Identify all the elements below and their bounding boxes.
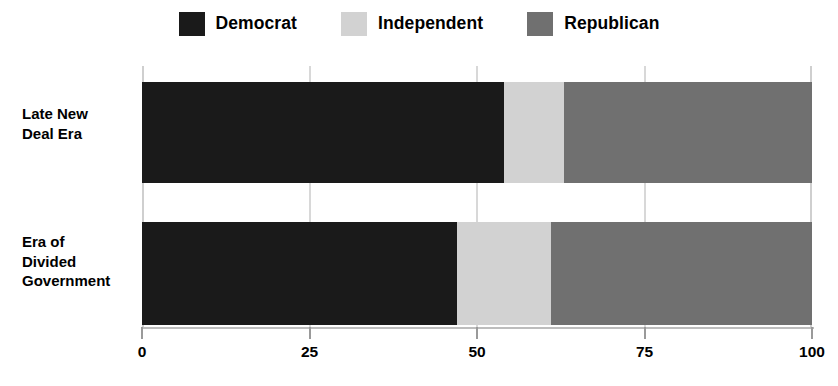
- legend-swatch-independent: [341, 12, 367, 36]
- legend-item-democrat: Democrat: [179, 12, 298, 36]
- bar-segment-independent: [504, 82, 564, 183]
- bar-segment-independent: [457, 222, 551, 325]
- x-axis-line: [142, 327, 814, 329]
- legend-label-republican: Republican: [564, 15, 659, 33]
- x-tick-mark-50: [476, 327, 478, 339]
- bar-segment-democrat: [142, 222, 457, 325]
- legend-label-democrat: Democrat: [216, 15, 298, 33]
- legend-item-republican: Republican: [527, 12, 659, 36]
- x-tick-label-25: 25: [301, 343, 318, 361]
- x-tick-mark-0: [141, 327, 143, 339]
- bar-segment-republican: [564, 82, 812, 183]
- stacked-bar-era-of-divided-government: [142, 222, 812, 325]
- chart-legend: Democrat Independent Republican: [0, 12, 838, 36]
- x-tick-label-50: 50: [468, 343, 485, 361]
- stacked-bar-late-new-deal-era: [142, 82, 812, 183]
- plot-area: [142, 66, 812, 327]
- category-label-late-new-deal-era: Late New Deal Era: [22, 104, 134, 143]
- x-tick-label-100: 100: [799, 343, 825, 361]
- category-label-era-of-divided-government: Era of Divided Government: [22, 232, 134, 291]
- x-tick-mark-25: [309, 327, 311, 339]
- legend-swatch-republican: [527, 12, 553, 36]
- x-tick-label-0: 0: [138, 343, 147, 361]
- legend-item-independent: Independent: [341, 12, 483, 36]
- x-tick-mark-75: [644, 327, 646, 339]
- x-tick-mark-100: [811, 327, 813, 339]
- x-tick-label-75: 75: [636, 343, 653, 361]
- legend-swatch-democrat: [179, 12, 205, 36]
- bar-segment-democrat: [142, 82, 504, 183]
- legend-label-independent: Independent: [378, 15, 483, 33]
- bar-segment-republican: [551, 222, 812, 325]
